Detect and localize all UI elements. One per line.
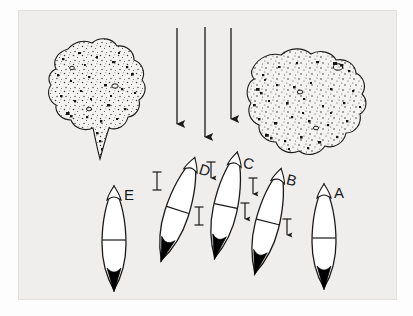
- pod-E-label: E: [124, 186, 134, 203]
- marker-upper-B: [249, 178, 258, 194]
- pod-A-label: A: [334, 184, 344, 201]
- marker-lower-B: [283, 219, 292, 235]
- right-mass: [247, 49, 366, 155]
- arrow-group: [177, 27, 231, 137]
- pod-E: E: [102, 186, 134, 292]
- marker-lower-C: [241, 203, 250, 219]
- pod-D-body: [150, 154, 206, 264]
- figure-root: E D C: [0, 0, 413, 316]
- pod-D: D: [149, 154, 212, 268]
- pod-D-label: D: [197, 160, 213, 180]
- left-mass: [49, 39, 146, 159]
- figure-canvas: E D C: [0, 0, 413, 316]
- right-mass-outline: [247, 49, 366, 155]
- pod-A: A: [312, 184, 344, 290]
- pod-B: B: [243, 166, 299, 280]
- marker-lower-D: [195, 207, 204, 225]
- pod-B-label: B: [285, 171, 299, 190]
- pod-C-label: C: [242, 154, 256, 173]
- marker-upper-D: [153, 172, 162, 190]
